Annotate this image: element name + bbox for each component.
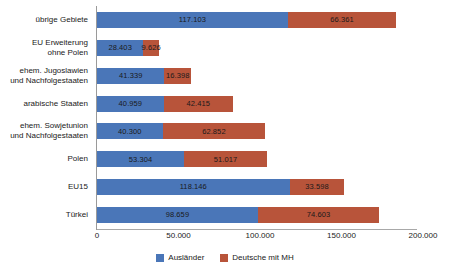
plot-area: 117.10366.36128.4039.62641.33916.39840.9… <box>97 6 423 229</box>
bar-segment-auslaender: 28.403 <box>97 40 143 56</box>
stacked-bar: 40.95942.415 <box>97 96 423 112</box>
x-tick-label: 0 <box>95 231 99 240</box>
bar-value-label: 53.304 <box>129 156 153 164</box>
category-label: übrige Gebiete <box>0 6 92 34</box>
category-axis-labels: übrige GebieteEU Erweiterungohne Poleneh… <box>0 6 92 229</box>
bar-segment-deutsche-mit-mh: 33.598 <box>290 179 345 195</box>
x-tick-label: 150.000 <box>327 231 356 240</box>
bar-segment-auslaender: 98.659 <box>97 207 258 223</box>
category-label: arabische Staaten <box>0 90 92 118</box>
bar-row: 118.14633.598 <box>97 173 423 201</box>
bar-value-label: 16.398 <box>166 72 190 80</box>
bar-row: 41.33916.398 <box>97 62 423 90</box>
bar-row: 28.4039.626 <box>97 34 423 62</box>
bar-segment-deutsche-mit-mh: 74.603 <box>258 207 380 223</box>
bar-value-label: 98.659 <box>166 211 190 219</box>
x-axis-line <box>97 229 417 230</box>
legend-swatch-icon <box>220 254 228 262</box>
bar-segment-auslaender: 40.300 <box>97 123 163 139</box>
bar-row: 117.10366.361 <box>97 6 423 34</box>
legend-item[interactable]: Ausländer <box>156 253 204 262</box>
category-label: ehem. Sowjetunionund Nachfolgestaaten <box>0 118 92 146</box>
bar-row: 98.65974.603 <box>97 201 423 229</box>
category-label: Polen <box>0 145 92 173</box>
bar-value-label: 42.415 <box>187 100 211 108</box>
bar-value-label: 40.959 <box>119 100 143 108</box>
bar-segment-deutsche-mit-mh: 51.017 <box>184 151 267 167</box>
bar-value-label: 9.626 <box>142 44 161 52</box>
stacked-bar-chart: übrige GebieteEU Erweiterungohne Poleneh… <box>0 0 450 273</box>
bar-segment-auslaender: 40.959 <box>97 96 164 112</box>
bar-value-label: 117.103 <box>179 16 206 24</box>
x-tick-label: 100.000 <box>246 231 275 240</box>
bar-row: 40.30062.852 <box>97 118 423 146</box>
bar-rows: 117.10366.36128.4039.62641.33916.39840.9… <box>97 6 423 229</box>
category-label: EU15 <box>0 173 92 201</box>
stacked-bar: 40.30062.852 <box>97 123 423 139</box>
bar-segment-deutsche-mit-mh: 16.398 <box>164 68 191 84</box>
bar-value-label: 118.146 <box>180 183 207 191</box>
chart-legend: AusländerDeutsche mit MH <box>0 253 450 262</box>
bar-value-label: 41.339 <box>119 72 143 80</box>
stacked-bar: 118.14633.598 <box>97 179 423 195</box>
bar-segment-deutsche-mit-mh: 9.626 <box>143 40 159 56</box>
bar-segment-auslaender: 117.103 <box>97 12 288 28</box>
legend-label: Ausländer <box>168 253 204 262</box>
legend-label: Deutsche mit MH <box>232 253 293 262</box>
x-tick-label: 50.000 <box>166 231 190 240</box>
bar-segment-deutsche-mit-mh: 42.415 <box>164 96 233 112</box>
stacked-bar: 41.33916.398 <box>97 68 423 84</box>
legend-item[interactable]: Deutsche mit MH <box>220 253 293 262</box>
bar-value-label: 33.598 <box>305 183 329 191</box>
bar-row: 53.30451.017 <box>97 145 423 173</box>
bar-value-label: 62.852 <box>202 128 226 136</box>
bar-value-label: 74.603 <box>307 211 331 219</box>
bar-segment-deutsche-mit-mh: 62.852 <box>163 123 265 139</box>
stacked-bar: 98.65974.603 <box>97 207 423 223</box>
category-label: Türkei <box>0 201 92 229</box>
bar-row: 40.95942.415 <box>97 90 423 118</box>
x-axis-tick-labels: 050.000100.000150.000200.000 <box>97 231 423 245</box>
stacked-bar: 28.4039.626 <box>97 40 423 56</box>
bar-segment-auslaender: 118.146 <box>97 179 290 195</box>
stacked-bar: 53.30451.017 <box>97 151 423 167</box>
bar-value-label: 40.300 <box>118 128 142 136</box>
stacked-bar: 117.10366.361 <box>97 12 423 28</box>
bar-segment-auslaender: 53.304 <box>97 151 184 167</box>
bar-value-label: 28.403 <box>108 44 132 52</box>
x-tick-label: 200.000 <box>409 231 438 240</box>
category-label: EU Erweiterungohne Polen <box>0 34 92 62</box>
bar-segment-auslaender: 41.339 <box>97 68 164 84</box>
bar-value-label: 51.017 <box>214 156 238 164</box>
bar-value-label: 66.361 <box>330 16 354 24</box>
category-label: ehem. Jugoslawienund Nachfolgestaaten <box>0 62 92 90</box>
legend-swatch-icon <box>156 254 164 262</box>
bar-segment-deutsche-mit-mh: 66.361 <box>288 12 396 28</box>
